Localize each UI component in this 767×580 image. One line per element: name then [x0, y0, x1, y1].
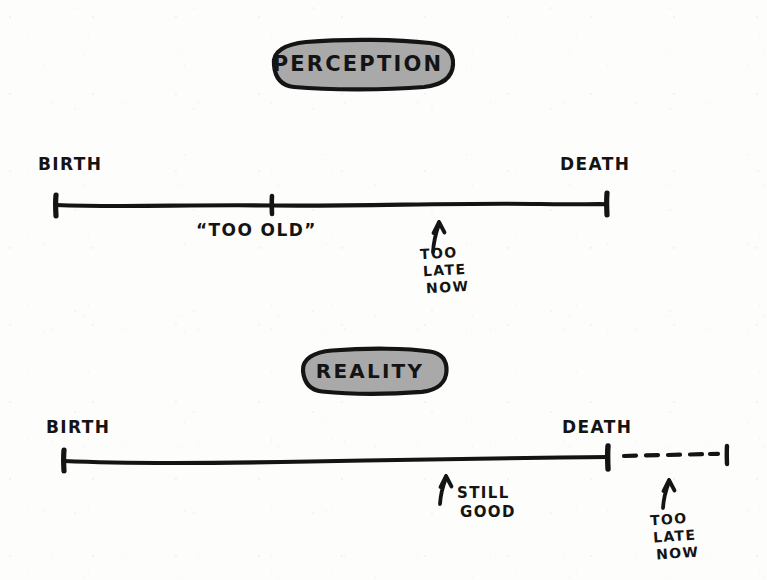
- reality-badge-label: REALITY: [316, 359, 424, 383]
- note-line: TOO: [650, 511, 694, 528]
- reality-death-label: DEATH: [562, 419, 632, 436]
- reality-birth-label: BIRTH: [46, 419, 110, 436]
- perception-axis-line: [56, 204, 607, 206]
- reality-still-good-note: STILL GOOD: [457, 486, 513, 516]
- perception-death-label: DEATH: [560, 156, 630, 173]
- note-line: STILL: [457, 486, 513, 501]
- reality-arrow-two-head: [664, 480, 675, 491]
- illustration-canvas: PERCEPTION BIRTH DEATH “TOO OLD” TOO LAT…: [0, 0, 767, 580]
- perception-badge: PERCEPTION: [258, 38, 458, 90]
- perception-badge-label: PERCEPTION: [273, 52, 444, 76]
- note-line: TOO: [420, 245, 464, 261]
- reality-too-late-now-note: TOO LATE NOW: [650, 512, 693, 554]
- reality-arrow-one-head: [441, 476, 452, 487]
- perception-arrow-head: [434, 222, 445, 233]
- reality-axis-line: [64, 457, 608, 463]
- note-line: NOW: [656, 545, 700, 562]
- note-line: NOW: [426, 279, 470, 295]
- perception-too-old-label: “TOO OLD”: [196, 222, 317, 239]
- note-line: LATE: [653, 528, 697, 545]
- perception-too-late-now-note: TOO LATE NOW: [420, 246, 463, 288]
- note-line: LATE: [423, 262, 467, 278]
- reality-arrow-two-shaft: [663, 482, 669, 508]
- perception-birth-label: BIRTH: [38, 156, 102, 173]
- reality-badge: REALITY: [290, 347, 450, 395]
- reality-arrow-one-shaft: [440, 478, 446, 504]
- note-line: GOOD: [460, 505, 516, 520]
